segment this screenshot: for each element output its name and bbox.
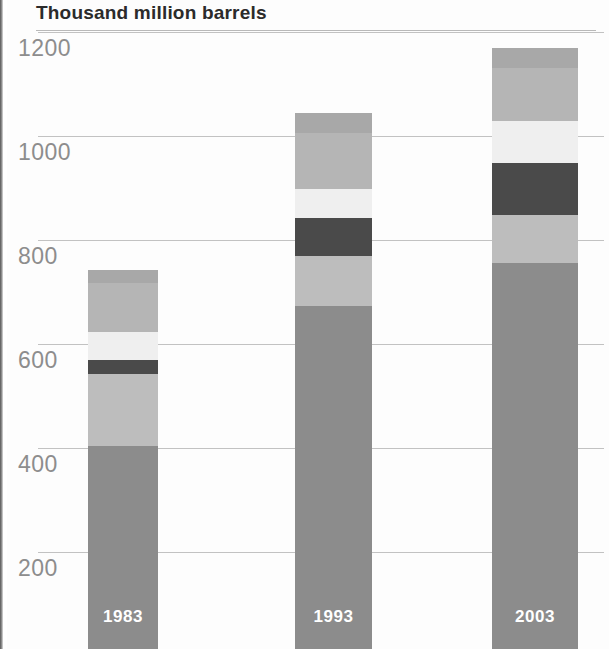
- bar-1993-segment-5: [295, 133, 372, 189]
- ytick-label-1000: 1000: [18, 139, 71, 166]
- xaxis-label-1983: 1983: [88, 607, 158, 627]
- bar-1983-segment-5: [88, 283, 158, 332]
- bar-2003-segment-6: [492, 48, 578, 68]
- bar-2003-segment-5: [492, 68, 578, 121]
- chart-root: Thousand million barrels 1200 1000 800 6…: [0, 0, 609, 649]
- ytick-label-1200: 1200: [18, 35, 71, 62]
- bar-1993-segment-1: [295, 306, 372, 649]
- bar-1983-segment-4: [88, 332, 158, 360]
- bar-1983-segment-3: [88, 360, 158, 374]
- bar-1983-segment-2: [88, 374, 158, 446]
- bar-1993-segment-3: [295, 218, 372, 256]
- bar-1993[interactable]: 1993: [295, 113, 372, 649]
- ytick-label-200: 200: [18, 555, 58, 582]
- bar-2003-segment-3: [492, 163, 578, 215]
- bar-1993-segment-4: [295, 189, 372, 218]
- bar-2003[interactable]: 2003: [492, 48, 578, 649]
- plot-area: 1200 1000 800 600 400 200 1983 1993: [0, 0, 609, 649]
- bar-1993-segment-2: [295, 256, 372, 306]
- xaxis-label-2003: 2003: [492, 607, 578, 627]
- gridline-1200: [38, 32, 604, 33]
- bar-2003-segment-4: [492, 121, 578, 163]
- bar-1983-segment-6: [88, 270, 158, 283]
- bar-2003-segment-2: [492, 215, 578, 263]
- bar-2003-segment-1: [492, 263, 578, 649]
- ytick-label-400: 400: [18, 451, 58, 478]
- ytick-label-600: 600: [18, 347, 58, 374]
- ytick-label-800: 800: [18, 243, 58, 270]
- bar-1983[interactable]: 1983: [88, 270, 158, 649]
- bar-1993-segment-6: [295, 113, 372, 133]
- xaxis-label-1993: 1993: [295, 607, 372, 627]
